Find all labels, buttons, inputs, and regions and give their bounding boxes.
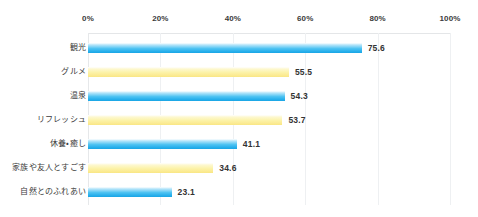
bar-row: 観光75.6 xyxy=(0,36,478,60)
bar xyxy=(88,91,285,101)
bar xyxy=(88,139,237,149)
bar-row: グルメ55.5 xyxy=(0,60,478,84)
bar xyxy=(88,43,362,53)
bar-track: 34.6 xyxy=(88,156,450,180)
bar-track: 53.7 xyxy=(88,108,450,132)
x-tick-label: 20% xyxy=(152,14,168,23)
bar-value-label: 54.3 xyxy=(291,84,308,108)
bar xyxy=(88,115,282,125)
bar-rows: 観光75.6グルメ55.5温泉54.3リフレッシュ53.7休養・癒し41.1家族… xyxy=(0,36,478,204)
category-label: グルメ xyxy=(61,60,86,84)
bar-value-label: 41.1 xyxy=(243,132,260,156)
x-tick-label: 60% xyxy=(297,14,313,23)
category-label: 温泉 xyxy=(70,84,86,108)
x-tick-label: 100% xyxy=(440,14,461,23)
bar xyxy=(88,187,172,197)
bar xyxy=(88,163,213,173)
footer-credit-text xyxy=(294,208,472,217)
bar-track: 55.5 xyxy=(88,60,450,84)
bar-value-label: 55.5 xyxy=(295,60,312,84)
bar-row: 温泉54.3 xyxy=(0,84,478,108)
category-label: 休養・癒し xyxy=(50,132,86,156)
x-tick-label: 80% xyxy=(369,14,385,23)
category-label: 家族や友人とすごす xyxy=(12,156,86,180)
bar-track: 54.3 xyxy=(88,84,450,108)
bar-chart: 0%20%40%60%80%100% 観光75.6グルメ55.5温泉54.3リフ… xyxy=(0,0,478,217)
bar-value-label: 75.6 xyxy=(368,36,385,60)
bar-row: 休養・癒し41.1 xyxy=(0,132,478,156)
bar xyxy=(88,67,289,77)
x-axis-tick-labels: 0%20%40%60%80%100% xyxy=(88,14,450,28)
axis-rule xyxy=(88,33,450,34)
category-label: 自然とのふれあい xyxy=(20,180,86,204)
bar-value-label: 23.1 xyxy=(178,180,195,204)
category-label: 観光 xyxy=(70,36,86,60)
bar-row: 自然とのふれあい23.1 xyxy=(0,180,478,204)
bar-value-label: 34.6 xyxy=(219,156,236,180)
bar-row: 家族や友人とすごす34.6 xyxy=(0,156,478,180)
x-tick-label: 0% xyxy=(82,14,94,23)
bar-track: 41.1 xyxy=(88,132,450,156)
category-label: リフレッシュ xyxy=(37,108,86,132)
bar-row: リフレッシュ53.7 xyxy=(0,108,478,132)
x-tick-label: 40% xyxy=(225,14,241,23)
bar-track: 23.1 xyxy=(88,180,450,204)
bar-value-label: 53.7 xyxy=(288,108,305,132)
bar-track: 75.6 xyxy=(88,36,450,60)
